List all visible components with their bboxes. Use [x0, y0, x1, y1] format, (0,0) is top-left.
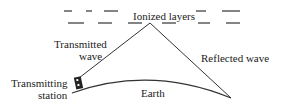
transmitting-station-tower-icon [74, 76, 83, 89]
label-reflected-wave: Reflected wave [201, 52, 269, 64]
label-earth: Earth [141, 87, 165, 99]
label-transmitted-wave-1: Transmitted [54, 38, 107, 50]
label-transmitting-station-1: Transmitting [11, 77, 67, 89]
label-transmitted-wave-2: wave [79, 50, 102, 62]
label-transmitting-station-2: station [38, 89, 67, 101]
label-ionized-layers: Ionized layers [133, 10, 195, 22]
